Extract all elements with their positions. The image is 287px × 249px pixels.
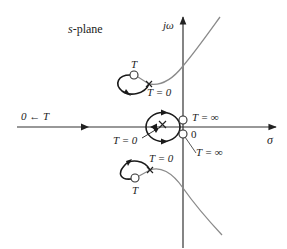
- center-Tinf-bottom-label: T = ∞: [196, 147, 223, 158]
- left-limit-label: 0 ← T: [21, 111, 49, 122]
- lower-T-label: T: [132, 185, 138, 196]
- zero-upper-on-axis: [179, 116, 187, 124]
- center-loop-bottom-arrow-icon: [161, 139, 168, 145]
- lower-zero-circle: [131, 174, 139, 182]
- upper-T-label: T: [131, 59, 137, 70]
- root-locus-diagram: [0, 0, 287, 249]
- plane-label: s-plane: [68, 23, 103, 35]
- lower-T0-label: T = 0: [149, 153, 173, 164]
- center-loop-top-arrow-icon: [161, 110, 168, 116]
- real-axis-label: σ: [267, 134, 273, 146]
- imaginary-axis-label: jω: [163, 20, 174, 31]
- zero-lower-on-axis: [179, 130, 187, 138]
- center-T0-label: T = 0: [113, 135, 137, 146]
- lower-pole-x-icon: [147, 167, 153, 173]
- upper-loop-arrow-icon: [124, 89, 131, 96]
- upper-T0-label: T = 0: [147, 87, 171, 98]
- lower-asymptotic-branch: [150, 169, 222, 235]
- center-Tinf-top-label: T = ∞: [192, 112, 219, 123]
- lower-loop-arrow-icon: [126, 159, 132, 166]
- upper-asymptotic-branch: [149, 17, 220, 84]
- origin-label: 0: [191, 129, 197, 140]
- upper-zero-circle: [130, 71, 138, 79]
- real-axis-direction-arrow-icon: [81, 124, 89, 131]
